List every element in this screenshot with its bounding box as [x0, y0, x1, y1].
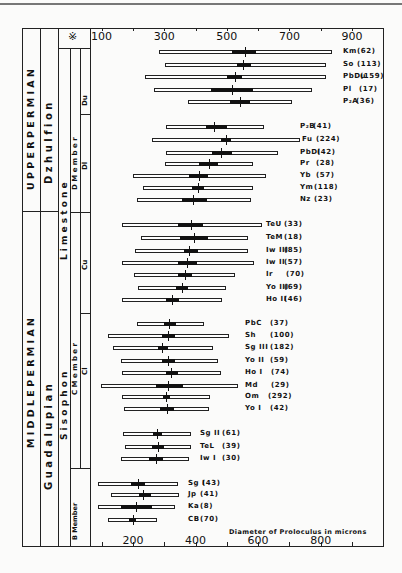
bottom-axis-tick — [289, 542, 290, 546]
mean-tick — [158, 442, 159, 452]
sample-count: (23) — [314, 195, 333, 203]
mean-tick — [162, 343, 163, 353]
sample-count: (59) — [270, 356, 289, 364]
mean-tick — [243, 60, 244, 70]
mean-tick — [240, 97, 241, 107]
sample-count: (30) — [222, 454, 241, 462]
sample-count: (118) — [314, 183, 338, 191]
mean-tick — [156, 454, 157, 464]
sample-count: (43) — [202, 479, 221, 487]
mean-tick — [168, 381, 169, 391]
sample-count: (18) — [284, 233, 303, 241]
mean-tick — [168, 331, 169, 341]
top-axis-label: 100 — [91, 30, 112, 43]
x-axis-title: Diameter of Proloculus in microns — [229, 528, 367, 536]
sample-count: (74) — [271, 368, 290, 376]
mean-tick — [171, 368, 172, 378]
top-axis-label: 700 — [279, 30, 300, 43]
mean-tick — [172, 295, 173, 305]
sample-label: Om — [245, 392, 259, 400]
sample-count: (57) — [316, 171, 335, 179]
mean-tick — [226, 135, 227, 145]
mean-tick — [166, 392, 167, 402]
sample-count: (62) — [357, 47, 376, 55]
mean-tick — [185, 270, 186, 280]
sample-label: Sg II — [200, 429, 220, 437]
sample-label: Pl — [343, 85, 352, 93]
sample-label: Yo II — [245, 356, 264, 364]
sample-label: Sg III — [245, 343, 268, 351]
sample-count: (42) — [270, 404, 289, 412]
sample-count: (29) — [271, 381, 290, 389]
top-axis-label: 500 — [216, 30, 237, 43]
sample-count: (17) — [359, 85, 378, 93]
top-axis-tick — [321, 28, 322, 31]
mean-tick — [199, 171, 200, 181]
sample-count: (41) — [200, 490, 219, 498]
top-axis-label: 900 — [342, 30, 363, 43]
sample-label: TeU — [266, 220, 282, 228]
sample-count: (100) — [270, 331, 294, 339]
mean-tick — [194, 233, 195, 243]
sample-count: (61) — [222, 429, 241, 437]
mean-tick — [214, 122, 215, 132]
sample-count: (292) — [268, 392, 292, 400]
sample-count: (41) — [313, 122, 332, 130]
mean-tick — [157, 429, 158, 439]
mean-tick — [193, 195, 194, 205]
bottom-axis-tick — [383, 542, 384, 546]
sample-count: (8) — [200, 502, 213, 510]
mean-tick — [235, 72, 236, 82]
mean-tick — [138, 479, 139, 489]
mean-tick — [189, 246, 190, 256]
top-axis-tick — [258, 28, 259, 31]
mean-tick — [187, 258, 188, 268]
sample-count: (159) — [360, 72, 384, 80]
sample-label: Iw I — [200, 454, 216, 462]
mean-tick — [167, 404, 168, 414]
mean-tick — [209, 159, 210, 169]
sample-label: So — [343, 60, 354, 68]
sample-count: (57) — [284, 258, 303, 266]
sample-count: (85) — [284, 246, 303, 254]
sample-label: Ir — [266, 270, 273, 278]
bottom-axis-tick — [352, 542, 353, 546]
mean-spread-box — [184, 249, 198, 253]
mean-tick — [168, 356, 169, 366]
bottom-axis-tick — [227, 542, 228, 546]
mean-tick — [136, 502, 137, 512]
sample-label: PbC — [245, 319, 262, 327]
sample-label: Fu — [302, 135, 312, 143]
sample-count: (46) — [284, 295, 303, 303]
sample-label: Yb — [300, 171, 311, 179]
mean-tick — [182, 283, 183, 293]
bottom-axis-label: 200 — [122, 534, 143, 547]
sample-count: (42) — [317, 148, 336, 156]
mean-spread-box — [139, 493, 151, 497]
top-axis-tick — [196, 28, 197, 31]
mean-tick — [143, 490, 144, 500]
bottom-axis-tick — [164, 542, 165, 546]
mean-tick — [133, 515, 134, 525]
sample-count: (28) — [316, 159, 335, 167]
sample-count: (37) — [270, 319, 289, 327]
mean-tick — [232, 85, 233, 95]
sample-label: Ho I — [245, 368, 263, 376]
mean-tick — [191, 220, 192, 230]
mean-spread-box — [182, 198, 207, 202]
sample-count: (182) — [270, 343, 294, 351]
sample-label: Ym — [300, 183, 313, 191]
mean-tick — [221, 148, 222, 158]
mean-spread-box — [156, 384, 183, 388]
sample-label: Yo I — [245, 404, 261, 412]
sample-count: (33) — [284, 220, 303, 228]
sample-label: Iw II — [266, 258, 285, 266]
sample-count: (69) — [284, 283, 303, 291]
sample-label: CB — [188, 515, 199, 523]
sample-count: (113) — [357, 60, 381, 68]
sample-count: (70) — [286, 270, 305, 278]
sample-label: Sh — [245, 331, 256, 339]
sample-label: Pr — [300, 159, 310, 167]
top-axis-label: 300 — [154, 30, 175, 43]
sample-label: Jp — [188, 490, 197, 498]
